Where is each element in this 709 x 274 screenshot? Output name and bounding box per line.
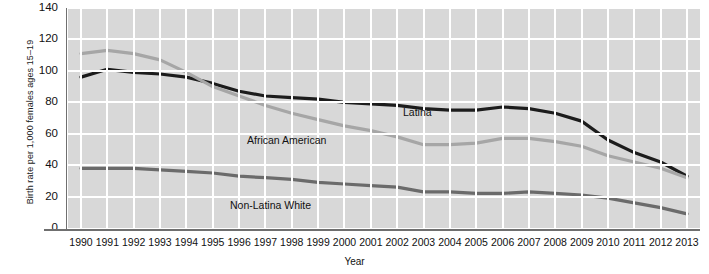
y-axis-tick-label: 0 (0, 221, 58, 233)
x-axis-tick-label: 2011 (623, 236, 646, 248)
x-axis-tick-label: 2008 (544, 236, 567, 248)
gridline-vertical (80, 8, 82, 228)
series-label-non-latina-white: Non-Latina White (230, 199, 311, 211)
y-axis-tick-label: 120 (0, 32, 58, 44)
plot-area (68, 8, 700, 228)
gridline-vertical (238, 8, 240, 228)
x-axis-tick-label: 2002 (385, 236, 408, 248)
x-axis-line (44, 229, 700, 231)
gridline-vertical (502, 8, 504, 228)
y-axis-tick-label: 60 (0, 127, 58, 139)
x-axis-tick-label: 1990 (69, 236, 92, 248)
x-axis-tick-label: 2001 (359, 236, 382, 248)
gridline-vertical (423, 8, 425, 228)
gridline-vertical (106, 8, 108, 228)
y-axis-tick-label: 100 (0, 64, 58, 76)
x-axis-tick-label: 2007 (517, 236, 540, 248)
x-axis-tick-label: 2013 (675, 236, 698, 248)
x-axis-tick-label: 2003 (412, 236, 435, 248)
gridline-vertical (317, 8, 319, 228)
series-line-latina (81, 69, 687, 176)
gridline-vertical (581, 8, 583, 228)
x-axis-tick-label: 1999 (306, 236, 329, 248)
gridline-horizontal (68, 133, 700, 135)
x-axis-tick-label: 2012 (649, 236, 672, 248)
gridline-vertical (633, 8, 635, 228)
y-axis-line (66, 8, 67, 229)
y-axis-tick-label: 40 (0, 158, 58, 170)
gridline-vertical (660, 8, 662, 228)
x-axis-tick-label: 1994 (175, 236, 198, 248)
x-axis-tick-label: 2004 (438, 236, 461, 248)
x-axis-tick-label: 1993 (148, 236, 171, 248)
gridline-vertical (449, 8, 451, 228)
gridline-vertical (554, 8, 556, 228)
gridline-horizontal (68, 7, 700, 9)
x-axis-tick-label: 1992 (122, 236, 145, 248)
gridline-horizontal (68, 196, 700, 198)
x-axis-tick-label: 2010 (596, 236, 619, 248)
y-axis-tick-label: 20 (0, 190, 58, 202)
gridline-vertical (370, 8, 372, 228)
gridline-horizontal (68, 70, 700, 72)
gridline-horizontal (68, 101, 700, 103)
gridline-vertical (528, 8, 530, 228)
gridline-vertical (264, 8, 266, 228)
y-axis-tick-label: 80 (0, 95, 58, 107)
gridline-vertical (343, 8, 345, 228)
x-axis-tick-label: 2006 (491, 236, 514, 248)
y-axis-tick-label: 140 (0, 1, 58, 13)
gridline-vertical (686, 8, 688, 228)
gridline-vertical (185, 8, 187, 228)
series-line-non-latina-white (81, 168, 687, 214)
birth-rate-line-chart: Birth rate per 1,000 females ages 15–19 … (0, 0, 709, 274)
gridline-vertical (291, 8, 293, 228)
gridline-horizontal (68, 164, 700, 166)
x-axis-tick-label: 2005 (465, 236, 488, 248)
gridline-vertical (212, 8, 214, 228)
series-label-african-american: African American (247, 134, 326, 146)
gridline-vertical (133, 8, 135, 228)
gridline-horizontal (68, 38, 700, 40)
gridline-vertical (475, 8, 477, 228)
series-label-latina: Latina (403, 106, 432, 118)
x-axis-tick-label: 1995 (201, 236, 224, 248)
x-axis-tick-label: 2009 (570, 236, 593, 248)
gridline-vertical (396, 8, 398, 228)
x-axis-tick-label: 1998 (280, 236, 303, 248)
gridline-vertical (159, 8, 161, 228)
x-axis-tick-label: 2000 (333, 236, 356, 248)
x-axis-tick-label: 1996 (227, 236, 250, 248)
x-axis-title: Year (0, 256, 709, 267)
x-axis-tick-label: 1991 (96, 236, 119, 248)
x-axis-tick-label: 1997 (254, 236, 277, 248)
gridline-vertical (607, 8, 609, 228)
